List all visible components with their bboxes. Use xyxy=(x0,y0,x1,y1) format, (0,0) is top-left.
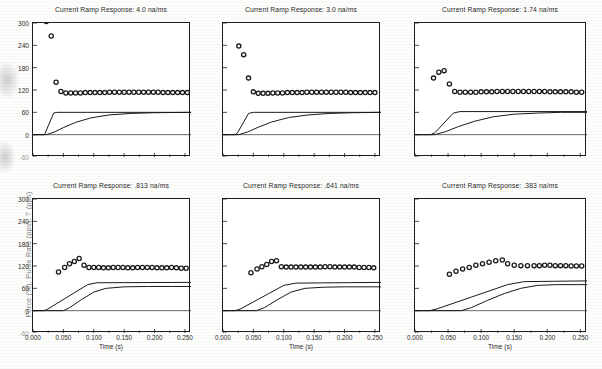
plot-panel-top-right: Current Ramp Response: 1.74 na/ms xyxy=(414,6,586,190)
data-point xyxy=(185,91,189,95)
data-point xyxy=(279,265,283,269)
data-point xyxy=(171,91,175,95)
data-point xyxy=(44,23,48,24)
data-point xyxy=(367,265,371,269)
data-point xyxy=(574,90,578,94)
data-point xyxy=(256,91,260,95)
data-point xyxy=(553,264,557,268)
x-tick-label: 0.100 xyxy=(86,334,102,341)
data-point xyxy=(333,265,337,269)
data-point xyxy=(274,259,278,263)
x-axis-label: Time (s) xyxy=(488,343,512,350)
plot-area: 0.0000.0500.1000.1500.2000.250Time (s) xyxy=(222,198,380,332)
data-point xyxy=(314,90,318,94)
data-point xyxy=(92,265,96,269)
data-point xyxy=(453,89,457,93)
data-point xyxy=(548,263,552,267)
scan-smudge xyxy=(0,140,16,174)
data-point xyxy=(532,264,536,268)
data-point xyxy=(548,90,552,94)
x-tick-label: 0.200 xyxy=(337,334,353,341)
data-point xyxy=(285,91,289,95)
x-axis-label: Time (s) xyxy=(99,343,123,350)
x-tick-label: 0.000 xyxy=(25,334,41,341)
data-point xyxy=(121,265,125,269)
data-point xyxy=(132,90,136,94)
x-tick-label: 0.050 xyxy=(440,334,456,341)
data-point xyxy=(353,91,357,95)
plot-area: 0.0000.0500.1000.1500.2000.250Time (s) xyxy=(414,198,586,332)
y-tick-label: 240 xyxy=(18,42,29,49)
data-point xyxy=(101,266,105,270)
data-point xyxy=(106,266,110,270)
data-point xyxy=(537,264,541,268)
data-point xyxy=(140,265,144,269)
data-point xyxy=(543,263,547,267)
data-point xyxy=(160,266,164,270)
data-point xyxy=(276,91,280,95)
data-point xyxy=(78,91,82,95)
x-tick-label: 0.200 xyxy=(147,334,163,341)
plot-graphics xyxy=(223,199,381,333)
data-point xyxy=(98,91,102,95)
y-tick-label: 120 xyxy=(18,87,29,94)
data-point xyxy=(564,264,568,268)
series-line xyxy=(33,286,191,310)
data-point xyxy=(300,91,304,95)
data-point xyxy=(373,91,377,95)
data-point xyxy=(242,53,246,57)
plot-panel-bottom-left: Current Ramp Response: .813 na/ms3002401… xyxy=(32,182,190,366)
plot-area xyxy=(222,22,380,156)
data-point xyxy=(93,91,97,95)
data-point xyxy=(111,265,115,269)
data-point xyxy=(103,91,107,95)
figure-canvas: Force (%), Pulse Rate (pps), T (pps) Cur… xyxy=(0,0,602,369)
data-point xyxy=(179,266,183,270)
data-point xyxy=(484,90,488,94)
plot-graphics xyxy=(415,199,587,333)
data-point xyxy=(150,265,154,269)
x-tick-label: 0.250 xyxy=(367,334,383,341)
data-point xyxy=(180,91,184,95)
y-tick-label: 300 xyxy=(18,20,29,27)
data-point xyxy=(468,90,472,94)
data-point xyxy=(63,265,67,269)
data-point xyxy=(305,90,309,94)
data-point xyxy=(166,91,170,95)
data-point xyxy=(574,264,578,268)
data-point xyxy=(558,90,562,94)
x-tick-label: 0.000 xyxy=(407,334,423,341)
data-point xyxy=(290,91,294,95)
data-point xyxy=(553,90,557,94)
data-point xyxy=(537,89,541,93)
y-tick-label: 0 xyxy=(25,307,29,314)
data-point xyxy=(580,90,584,94)
data-point xyxy=(521,89,525,93)
data-point xyxy=(512,263,516,267)
data-point xyxy=(334,90,338,94)
data-point xyxy=(447,82,451,86)
data-point xyxy=(500,258,504,262)
x-tick-label: 0.100 xyxy=(276,334,292,341)
data-point xyxy=(480,262,484,266)
data-point xyxy=(339,90,343,94)
data-point xyxy=(156,90,160,94)
data-point xyxy=(368,91,372,95)
data-point xyxy=(347,265,351,269)
series-line xyxy=(415,112,587,135)
data-point xyxy=(358,91,362,95)
data-point xyxy=(135,265,139,269)
data-point xyxy=(145,265,149,269)
data-point xyxy=(249,271,253,275)
x-tick-label: 0.050 xyxy=(55,334,71,341)
x-tick-label: 0.000 xyxy=(215,334,231,341)
data-point xyxy=(97,265,101,269)
data-point xyxy=(127,90,131,94)
data-point xyxy=(270,259,274,263)
data-point xyxy=(431,76,435,80)
data-point xyxy=(116,265,120,269)
data-point xyxy=(266,91,270,95)
plot-area: 300240180120600-60 xyxy=(32,22,190,156)
data-point xyxy=(474,90,478,94)
x-tick-label: 0.150 xyxy=(116,334,132,341)
